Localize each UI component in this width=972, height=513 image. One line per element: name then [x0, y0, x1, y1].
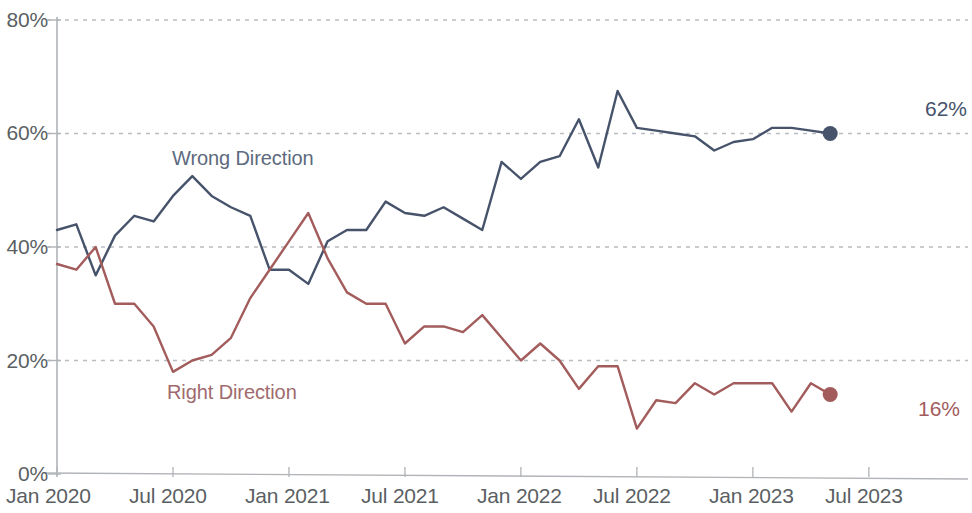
y-tick-label-20: 20%: [0, 349, 48, 373]
x-tick-label-jan-2022: Jan 2022: [477, 484, 562, 508]
end-value-label-right-direction: 16%: [918, 397, 960, 421]
series-label-right-direction: Right Direction: [167, 381, 297, 404]
end-value-label-wrong-direction: 62%: [925, 97, 967, 121]
x-tick-label-jul-2021: Jul 2021: [361, 484, 439, 508]
axis-lines: [45, 17, 968, 479]
x-tick-label-jan-2023: Jan 2023: [709, 484, 794, 508]
y-tick-label-40: 40%: [0, 235, 48, 259]
y-tick-label-60: 60%: [0, 121, 48, 145]
y-tick-label-80: 80%: [0, 8, 48, 32]
chart-container: 80% 60% 40% 20% 0% Jan 2020 Jul 2020 Jan…: [0, 0, 972, 513]
x-tick-label-jul-2020: Jul 2020: [129, 484, 207, 508]
x-tick-label-jan-2021: Jan 2021: [245, 484, 330, 508]
end-marker-right-direction: [823, 387, 838, 402]
gridlines: [47, 20, 968, 361]
y-tick-label-0: 0%: [0, 462, 48, 486]
chart-plot-area: [0, 0, 972, 513]
series-lines: [57, 91, 830, 429]
end-marker-wrong-direction: [823, 126, 838, 141]
x-axis-line: [45, 473, 968, 479]
x-tick-label-jul-2022: Jul 2022: [593, 484, 671, 508]
x-tick-label-jul-2023: Jul 2023: [825, 484, 903, 508]
x-tick-label-jan-2020: Jan 2020: [6, 484, 91, 508]
series-label-wrong-direction: Wrong Direction: [172, 147, 314, 170]
series-line-wrong-direction: [57, 91, 830, 284]
